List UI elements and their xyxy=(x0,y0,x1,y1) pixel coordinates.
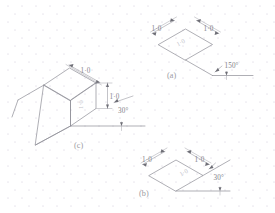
grid-dot xyxy=(140,13,142,15)
grid-dot xyxy=(217,133,219,135)
grid-dot xyxy=(252,29,254,31)
grid-dot xyxy=(49,5,51,7)
grid-dot xyxy=(91,53,93,55)
grid-dot xyxy=(273,69,275,71)
grid-dot xyxy=(245,181,247,183)
grid-dot xyxy=(21,133,23,135)
grid-dot xyxy=(259,165,261,167)
grid-dot xyxy=(252,109,254,111)
grid-dot xyxy=(231,181,233,183)
grid-dot xyxy=(105,101,107,103)
grid-dot xyxy=(21,69,23,71)
grid-dot xyxy=(217,53,219,55)
grid-dot xyxy=(161,165,163,167)
grid-dot xyxy=(112,77,114,79)
grid-dot xyxy=(42,109,44,111)
grid-dot xyxy=(98,173,100,175)
grid-dot xyxy=(42,13,44,15)
grid-dot xyxy=(189,197,191,199)
grid-dot xyxy=(189,69,191,71)
grid-dot xyxy=(21,53,23,55)
grid-dot xyxy=(49,165,51,167)
grid-dot xyxy=(147,117,149,119)
grid-dot xyxy=(14,93,16,95)
grid-dot xyxy=(7,181,9,183)
grid-dot xyxy=(273,21,275,23)
grid-dot xyxy=(182,45,184,47)
grid-dot xyxy=(147,5,149,7)
grid-dot xyxy=(238,77,240,79)
grid-dot xyxy=(126,29,128,31)
grid-dot xyxy=(28,109,30,111)
grid-dot xyxy=(49,181,51,183)
grid-dot xyxy=(168,29,170,31)
figure-c-proj-lower xyxy=(12,100,18,117)
grid-dot xyxy=(273,85,275,87)
grid-dot xyxy=(77,181,79,183)
grid-dot xyxy=(182,13,184,15)
grid-dot xyxy=(70,77,72,79)
grid-dot xyxy=(259,37,261,39)
grid-dot xyxy=(56,45,58,47)
grid-dot xyxy=(14,205,16,207)
grid-dot xyxy=(84,93,86,95)
grid-dot xyxy=(35,37,37,39)
figure-b-arrow-right-b xyxy=(205,162,209,166)
grid-dot xyxy=(147,69,149,71)
grid-dot xyxy=(98,205,100,207)
grid-dot xyxy=(238,45,240,47)
grid-dot xyxy=(175,5,177,7)
grid-dot xyxy=(133,101,135,103)
grid-dot xyxy=(126,205,128,207)
grid-dot xyxy=(147,53,149,55)
grid-dot xyxy=(7,197,9,199)
grid-dot xyxy=(224,93,226,95)
grid-dot xyxy=(14,45,16,47)
grid-dot xyxy=(49,197,51,199)
grid-dot xyxy=(182,61,184,63)
grid-dot xyxy=(63,53,65,55)
grid-dot xyxy=(91,117,93,119)
grid-dot xyxy=(147,101,149,103)
grid-dot xyxy=(245,53,247,55)
grid-dot xyxy=(119,53,121,55)
figure-c-proj-upper xyxy=(18,85,44,100)
grid-dot xyxy=(119,69,121,71)
grid-dot xyxy=(238,157,240,159)
grid-dot xyxy=(196,109,198,111)
grid-dot xyxy=(154,61,156,63)
grid-dot xyxy=(35,117,37,119)
grid-dot xyxy=(168,13,170,15)
figure-c-angle-label: 30° xyxy=(118,107,128,115)
grid-dot xyxy=(161,53,163,55)
grid-dot xyxy=(168,141,170,143)
grid-dot xyxy=(140,173,142,175)
grid-dot xyxy=(189,5,191,7)
isometric-drawing-page: 1·0 1·0 150° (a) 1·0 xyxy=(0,0,275,213)
figure-c: 1·0 1·0 30° (c) 1·0 xyxy=(12,64,145,150)
grid-dot xyxy=(189,165,191,167)
grid-dot xyxy=(28,189,30,191)
grid-dot xyxy=(119,117,121,119)
grid-dot xyxy=(245,5,247,7)
grid-dot xyxy=(231,197,233,199)
grid-dot xyxy=(182,205,184,207)
grid-dot xyxy=(126,61,128,63)
grid-dot xyxy=(126,157,128,159)
grid-dot xyxy=(91,197,93,199)
grid-dot xyxy=(238,141,240,143)
grid-dot xyxy=(119,21,121,23)
grid-dot xyxy=(84,157,86,159)
grid-dot xyxy=(203,85,205,87)
grid-dot xyxy=(63,181,65,183)
grid-dot xyxy=(259,5,261,7)
grid-dot xyxy=(196,205,198,207)
grid-dot xyxy=(112,13,114,15)
grid-dot xyxy=(196,93,198,95)
grid-dot xyxy=(161,85,163,87)
grid-dot xyxy=(210,157,212,159)
grid-dot xyxy=(217,37,219,39)
grid-dot xyxy=(119,149,121,151)
grid-dot xyxy=(273,53,275,55)
grid-dot xyxy=(21,181,23,183)
